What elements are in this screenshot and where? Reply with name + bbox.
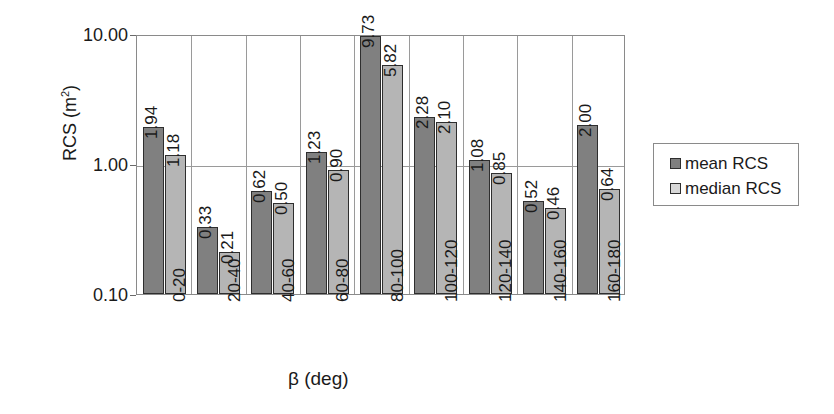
bar-value-label: 1.08 bbox=[469, 139, 486, 172]
bar-mean bbox=[577, 125, 598, 294]
gridline-category-separator bbox=[517, 36, 518, 294]
x-axis-tick-label: 120-140 bbox=[497, 240, 514, 302]
y-axis-tick-mark bbox=[130, 295, 136, 296]
bar-value-label: 0.64 bbox=[599, 168, 616, 201]
legend-swatch-icon-mean bbox=[670, 158, 681, 169]
x-axis-tick-label: 140-160 bbox=[552, 240, 569, 302]
legend-label-median: median RCS bbox=[685, 180, 781, 197]
bar-value-label: 0.62 bbox=[251, 170, 268, 203]
gridline-category-separator bbox=[191, 36, 192, 294]
bar-value-label: 1.23 bbox=[306, 131, 323, 164]
x-axis-title: β (deg) bbox=[288, 368, 349, 390]
legend: mean RCS median RCS bbox=[653, 143, 799, 206]
bar-mean bbox=[143, 127, 164, 294]
bar-value-label: 2.00 bbox=[577, 104, 594, 137]
bar-value-label: 2.28 bbox=[414, 96, 431, 129]
gridline-category-separator bbox=[409, 36, 410, 294]
x-axis-tick-label: 100-120 bbox=[443, 240, 460, 302]
gridline-category-separator bbox=[354, 36, 355, 294]
bar-mean bbox=[360, 36, 381, 294]
gridline-category-separator bbox=[300, 36, 301, 294]
bar-mean bbox=[251, 191, 272, 294]
x-axis-tick-label: 0-20 bbox=[171, 268, 188, 302]
bar-mean bbox=[523, 201, 544, 294]
bar-mean bbox=[414, 117, 435, 294]
bar-value-label: 1.18 bbox=[165, 134, 182, 167]
x-axis-tick-label: 80-100 bbox=[389, 249, 406, 302]
bar-value-label: 5.82 bbox=[382, 43, 399, 76]
y-axis-title-paren: ) bbox=[60, 85, 80, 91]
bar-value-label: 0.52 bbox=[523, 180, 540, 213]
bar-value-label: 0.90 bbox=[328, 149, 345, 182]
x-axis-tick-label: 20-40 bbox=[226, 259, 243, 302]
y-axis-title-superscript: 2 bbox=[59, 91, 71, 97]
bar-value-label: 0.46 bbox=[545, 187, 562, 220]
legend-swatch-icon-median bbox=[670, 183, 681, 194]
rcs-bar-chart: RCS (m2) 10.001.000.10 1.941.180.330.210… bbox=[0, 0, 834, 414]
bar-mean bbox=[469, 160, 490, 294]
bar-value-label: 0.33 bbox=[197, 205, 214, 238]
x-axis-tick-label: 160-180 bbox=[606, 240, 623, 302]
legend-item-median-rcs[interactable]: median RCS bbox=[670, 180, 781, 197]
legend-item-mean-rcs[interactable]: mean RCS bbox=[670, 155, 768, 172]
gridline-category-separator bbox=[572, 36, 573, 294]
gridline-category-separator bbox=[463, 36, 464, 294]
gridline-category-separator bbox=[246, 36, 247, 294]
x-axis-tick-label: 40-60 bbox=[280, 259, 297, 302]
bar-value-label: 2.10 bbox=[436, 101, 453, 134]
y-axis-tick-label: 0.10 bbox=[60, 286, 128, 304]
y-axis-tick-label: 1.00 bbox=[60, 156, 128, 174]
bar-value-label: 0.85 bbox=[491, 152, 508, 185]
bar-mean bbox=[306, 152, 327, 294]
x-axis-tick-label: 60-80 bbox=[334, 259, 351, 302]
y-axis-title-text: RCS (m bbox=[60, 97, 80, 161]
y-axis-tick-label: 10.00 bbox=[60, 26, 128, 44]
bar-value-label: 0.50 bbox=[273, 182, 290, 215]
legend-label-mean: mean RCS bbox=[685, 155, 768, 172]
bar-value-label: 1.94 bbox=[143, 105, 160, 138]
bar-value-label: 9.73 bbox=[360, 14, 377, 47]
